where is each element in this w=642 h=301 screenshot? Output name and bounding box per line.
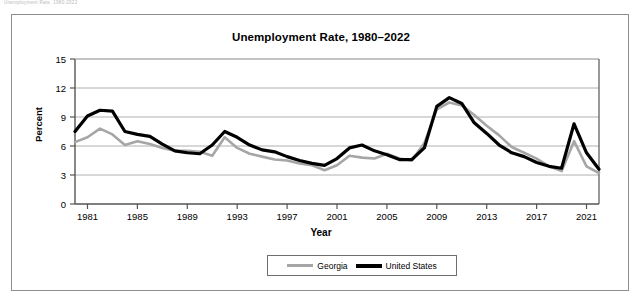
legend-label-georgia: Georgia xyxy=(317,261,347,271)
y-tick-label: 9 xyxy=(61,112,66,123)
x-tick-label: 2005 xyxy=(376,211,397,222)
x-tick-label: 1981 xyxy=(77,211,98,222)
x-tick-label: 2013 xyxy=(476,211,497,222)
legend-item-georgia: Georgia xyxy=(287,261,347,271)
x-tick-label: 1993 xyxy=(227,211,248,222)
series-line-united-states xyxy=(75,98,599,170)
chart-page: Unemployment Rate, 1980-2022 Unemploymen… xyxy=(0,0,642,301)
x-tick-label: 1997 xyxy=(277,211,298,222)
page-caption: Unemployment Rate, 1980-2022 xyxy=(4,0,77,5)
chart-figure-frame: Unemployment Rate, 1980–2022 Percent 036… xyxy=(11,14,629,291)
x-tick-label: 2009 xyxy=(426,211,447,222)
legend-item-united-states: United States xyxy=(356,261,437,271)
legend-swatch-georgia-icon xyxy=(287,264,313,267)
y-tick-label: 15 xyxy=(55,54,66,65)
y-tick-label: 3 xyxy=(61,170,66,181)
x-tick-label: 2001 xyxy=(326,211,347,222)
y-tick-label: 12 xyxy=(55,83,66,94)
chart-legend: Georgia United States xyxy=(267,255,457,276)
x-axis-title: Year xyxy=(12,227,630,238)
line-chart-svg: 0369121519811985198919931997200120052009… xyxy=(12,15,630,292)
y-tick-label: 6 xyxy=(61,141,66,152)
x-tick-label: 2017 xyxy=(526,211,547,222)
y-tick-label: 0 xyxy=(61,199,66,210)
legend-swatch-united-states-icon xyxy=(356,264,382,268)
x-tick-label: 1989 xyxy=(177,211,198,222)
plot-area: Percent 03691215198119851989199319972001… xyxy=(12,15,630,292)
x-tick-label: 1985 xyxy=(127,211,148,222)
x-tick-label: 2021 xyxy=(576,211,597,222)
legend-label-united-states: United States xyxy=(386,261,437,271)
